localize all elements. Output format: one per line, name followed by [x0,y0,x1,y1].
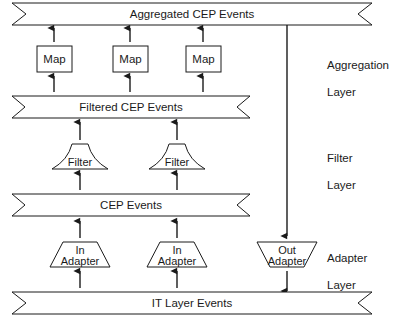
layer-label-aggregation-line2: Layer [327,86,389,100]
layer-label-aggregation: Aggregation Layer [327,45,389,113]
layer-label-adapter-line1: Adapter [327,252,367,266]
map-box-2: Map [113,46,148,72]
layer-label-adapter: Adapter Layer [327,238,367,306]
map-label-2: Map [119,53,141,65]
layer-label-adapter-line2: Layer [327,279,367,293]
out-adapter-label-line2: Adapter [268,255,307,267]
in-adapter-2: In Adapter [147,242,207,267]
banner-cep-events: CEP Events [12,194,250,216]
banner-label-filtered-cep-events: Filtered CEP Events [79,101,183,113]
filter-funnel-2: Filter [149,144,205,169]
layer-label-filter-line1: Filter [327,152,356,166]
map-label-3: Map [192,53,214,65]
banner-filtered-cep-events: Filtered CEP Events [12,96,250,118]
out-adapter-1: Out Adapter [257,242,317,267]
map-box-3: Map [186,46,221,72]
filter-label-2: Filter [165,156,190,168]
map-box-1: Map [37,46,72,72]
layer-label-filter-line2: Layer [327,179,356,193]
filter-label-1: Filter [68,156,93,168]
in-adapter-label-2-line2: Adapter [158,255,197,267]
map-label-1: Map [43,53,65,65]
in-adapter-1: In Adapter [50,242,110,267]
banner-label-it-layer-events: IT Layer Events [152,297,233,309]
layer-label-filter: Filter Layer [327,138,356,206]
banner-aggregated-cep-events: Aggregated CEP Events [12,3,372,25]
in-adapter-label-1-line2: Adapter [61,255,100,267]
filter-funnel-1: Filter [52,144,108,169]
banner-label-cep-events: CEP Events [100,199,162,211]
diagram-canvas: Aggregated CEP Events Map Map Map Filter… [0,0,403,318]
banner-it-layer-events: IT Layer Events [12,292,372,314]
banner-label-aggregated-cep-events: Aggregated CEP Events [130,8,255,20]
layer-label-aggregation-line1: Aggregation [327,59,389,73]
